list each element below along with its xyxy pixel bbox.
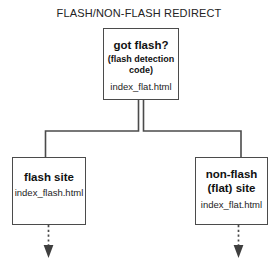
node-got-flash-subtitle-line-2: code) bbox=[129, 65, 153, 77]
page-title: FLASH/NON-FLASH REDIRECT bbox=[0, 7, 278, 19]
node-flash-site[interactable]: flash site index_flash.html bbox=[12, 157, 86, 225]
node-non-flash-site[interactable]: non-flash (flat) site index_flat.html bbox=[195, 157, 268, 225]
node-non-flash-site-heading-line-2: (flat) site bbox=[208, 181, 256, 195]
arrow-head-nonflash-exit bbox=[234, 245, 244, 258]
connector-root-to-nonflash bbox=[144, 100, 242, 157]
node-got-flash-subtitle-line-1: (flash detection bbox=[108, 54, 175, 66]
node-got-flash[interactable]: got flash? (flash detection code) index_… bbox=[103, 28, 179, 100]
connector-root-to-flash bbox=[46, 100, 139, 157]
node-got-flash-heading: got flash? bbox=[114, 38, 169, 52]
node-flash-site-filename: index_flash.html bbox=[15, 187, 84, 199]
arrow-head-flash-exit bbox=[44, 245, 54, 258]
node-non-flash-site-heading-line-1: non-flash bbox=[206, 167, 258, 181]
node-non-flash-site-filename: index_flat.html bbox=[201, 199, 262, 211]
flowchart-diagram: FLASH/NON-FLASH REDIRECT got flash? (fla… bbox=[0, 0, 278, 261]
node-flash-site-heading: flash site bbox=[24, 170, 74, 184]
node-got-flash-filename: index_flat.html bbox=[110, 81, 171, 93]
